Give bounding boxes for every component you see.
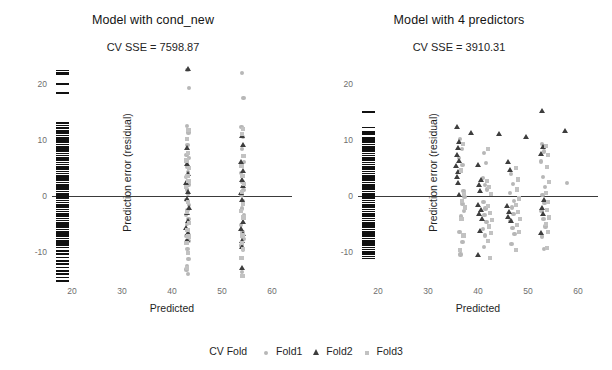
data-point-square: [184, 158, 188, 162]
data-point-square: [184, 241, 188, 245]
rug-mark: [56, 73, 69, 75]
data-point-square: [239, 164, 243, 168]
data-point-triangle: [475, 252, 481, 257]
data-point-circle: [186, 257, 190, 261]
panel-model-cond-new: Model with cond_new CV SSE = 7598.87 Pre…: [0, 0, 306, 335]
data-point-circle: [483, 233, 487, 237]
legend-item-fold3[interactable]: Fold3: [362, 345, 403, 357]
panel-left-x-axis-label: Predicted: [52, 302, 292, 314]
data-point-triangle: [186, 205, 192, 210]
data-point-triangle: [562, 128, 568, 133]
data-point-square: [186, 128, 190, 132]
data-point-triangle: [539, 108, 545, 113]
x-axis-tick-label: 20: [373, 286, 382, 296]
data-point-triangle: [477, 188, 483, 193]
legend-glyph-square: [365, 351, 369, 355]
legend-glyph-triangle: [313, 349, 319, 355]
data-point-triangle: [240, 168, 246, 173]
data-point-square: [546, 200, 550, 204]
y-axis-tick-label: 0: [348, 191, 353, 201]
data-point-circle: [508, 191, 512, 195]
legend-label-fold3: Fold3: [377, 345, 403, 357]
data-point-square: [488, 211, 492, 215]
rug-mark: [56, 273, 69, 275]
data-point-circle: [541, 217, 545, 221]
rug-mark: [56, 280, 69, 282]
legend-item-fold2[interactable]: Fold2: [311, 345, 352, 357]
x-axis-tick-label: 30: [423, 286, 432, 296]
data-point-triangle: [239, 265, 245, 270]
data-point-triangle: [454, 124, 460, 129]
data-point-square: [546, 153, 550, 157]
data-point-square: [514, 203, 518, 207]
data-point-triangle: [454, 152, 460, 157]
data-point-triangle: [477, 228, 483, 233]
x-axis-tick-label: 50: [523, 286, 532, 296]
data-point-triangle: [504, 203, 510, 208]
panel-right-plot-area: Prediction error (residual) Predicted 20…: [358, 62, 598, 283]
data-point-circle: [509, 172, 513, 176]
data-point-square: [460, 199, 464, 203]
data-point-triangle: [475, 162, 481, 167]
data-point-circle: [240, 71, 244, 75]
rug-mark: [56, 270, 69, 272]
data-point-square: [516, 177, 520, 181]
data-point-circle: [541, 175, 545, 179]
data-point-triangle: [523, 134, 529, 139]
data-point-square: [186, 200, 190, 204]
data-point-triangle: [478, 177, 484, 182]
data-point-square: [239, 209, 243, 213]
data-point-circle: [186, 272, 190, 276]
legend-item-fold1[interactable]: Fold1: [261, 345, 302, 357]
data-point-square: [459, 168, 463, 172]
data-point-triangle: [496, 131, 502, 136]
legend-label-fold1: Fold1: [276, 345, 302, 357]
data-point-triangle: [538, 151, 544, 156]
y-axis-tick-label: 20: [344, 79, 353, 89]
data-point-square: [514, 248, 518, 252]
data-point-circle: [484, 161, 488, 165]
data-point-circle: [543, 185, 547, 189]
data-point-square: [458, 248, 462, 252]
y-axis-tick-label: 10: [38, 135, 47, 145]
data-point-circle: [539, 159, 543, 163]
rug-mark: [56, 125, 69, 127]
data-point-square: [486, 204, 490, 208]
rug-mark: [56, 253, 69, 255]
data-point-square: [240, 132, 244, 136]
data-point-square: [241, 247, 245, 251]
rug-mark: [56, 83, 69, 85]
chart-legend: CV Fold Fold1 Fold2 Fold3: [0, 338, 612, 364]
data-point-circle: [458, 252, 462, 256]
legend-glyph-circle: [264, 351, 268, 355]
panel-right-x-axis-label: Predicted: [358, 302, 598, 314]
panel-right-subtitle: CV SSE = 3910.31: [306, 41, 612, 53]
data-point-triangle: [479, 216, 485, 221]
data-point-square: [489, 231, 493, 235]
rug-mark: [56, 267, 69, 269]
panel-right-data-layer: 20100-102030405060: [358, 62, 598, 283]
data-point-square: [186, 234, 190, 238]
data-point-triangle: [508, 218, 514, 223]
rug-mark: [362, 127, 375, 129]
x-axis-tick-label: 20: [67, 286, 76, 296]
legend-triangle-icon: [311, 345, 321, 357]
data-point-square: [240, 241, 244, 245]
data-point-square: [545, 208, 549, 212]
data-point-square: [514, 166, 518, 170]
data-point-circle: [241, 96, 245, 100]
data-point-square: [463, 205, 467, 209]
data-point-triangle: [455, 145, 461, 150]
data-point-square: [487, 224, 491, 228]
data-point-triangle: [454, 174, 460, 179]
data-point-square: [187, 221, 191, 225]
data-point-triangle: [507, 167, 513, 172]
data-point-triangle: [238, 226, 244, 231]
rug-mark: [56, 263, 69, 265]
data-point-triangle: [239, 197, 245, 202]
data-point-triangle: [538, 230, 544, 235]
data-point-square: [544, 144, 548, 148]
data-point-square: [185, 137, 189, 141]
data-point-square: [241, 215, 245, 219]
x-axis-tick-label: 50: [217, 286, 226, 296]
